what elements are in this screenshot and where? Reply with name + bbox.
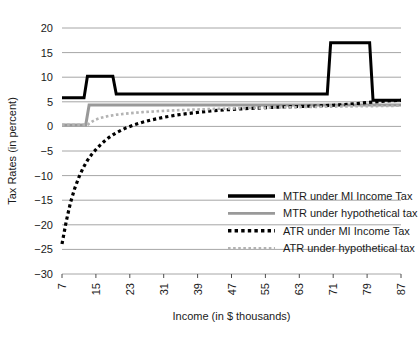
x-tick-label: 55 [259,283,271,295]
series-line [62,106,401,125]
series-line [62,100,401,244]
x-tick-label: 23 [124,283,136,295]
x-tick-label: 79 [361,283,373,295]
x-tick-label: 39 [192,283,204,295]
y-tick-label: −30 [34,268,53,280]
series-line [62,43,401,101]
y-tick-label: 10 [41,71,53,83]
y-tick-label: −5 [40,145,53,157]
legend-label: MTR under MI Income Tax [283,190,413,202]
legend-label: ATR under MI Income Tax [283,225,410,237]
tax-rates-line-chart: 20151050−5−10−15−20−25−30715233139475563… [0,0,420,338]
legend-label: ATR under hypothetical tax [283,242,415,254]
chart-legend: MTR under MI Income TaxMTR under hypothe… [228,190,418,254]
x-tick-label: 63 [293,283,305,295]
chart-container: 20151050−5−10−15−20−25−30715233139475563… [0,0,420,338]
x-tick-label: 31 [158,283,170,295]
x-axis-tick-labels: 715233139475563717987 [56,274,407,295]
y-tick-label: −25 [34,243,53,255]
y-tick-label: −10 [34,170,53,182]
x-tick-label: 47 [226,283,238,295]
x-tick-label: 71 [327,283,339,295]
y-tick-label: 20 [41,22,53,34]
y-tick-label: 5 [47,96,53,108]
y-tick-label: 0 [47,120,53,132]
x-axis-title: Income (in $ thousands) [172,310,290,322]
legend-label: MTR under hypothetical tax [283,207,418,219]
y-tick-label: −15 [34,194,53,206]
y-tick-label: 15 [41,47,53,59]
x-tick-label: 87 [395,283,407,295]
x-tick-label: 15 [90,283,102,295]
gridlines [62,28,401,274]
y-axis-title: Tax Rates (in percent) [6,97,18,205]
y-axis-tick-labels: 20151050−5−10−15−20−25−30 [34,22,53,280]
x-tick-label: 7 [56,283,68,289]
y-tick-label: −20 [34,219,53,231]
